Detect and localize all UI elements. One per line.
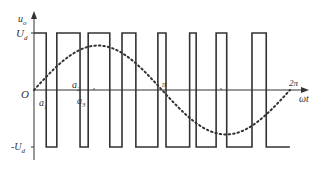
y-axis-label: uo <box>18 13 27 27</box>
spwm-diagram: uo Ud -Ud O a1 a2 a3 π 2π ωt <box>0 0 321 176</box>
y-axis-arrow <box>31 11 37 19</box>
bottom-level-label: -Ud <box>11 141 26 155</box>
angle-label-a3: a3 <box>77 95 86 109</box>
two-pi-label: 2π <box>289 78 299 88</box>
origin-label: O <box>21 88 29 100</box>
x-axis-label: ωt <box>299 93 309 104</box>
top-level-label: Ud <box>16 27 28 42</box>
pi-label: π <box>162 79 167 89</box>
